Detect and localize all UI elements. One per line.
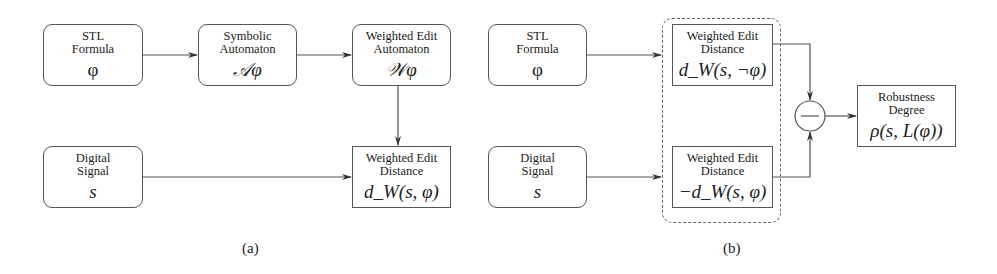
weighted-edit-automaton-node: Weighted Edit Automaton 𝒲φ (352, 24, 451, 86)
node-symbol: φ (88, 59, 99, 81)
robustness-degree-node: Robustness Degree ρ(s, L(φ)) (857, 85, 956, 147)
node-title: Formula (516, 43, 558, 56)
node-symbol: d_W(s, ¬φ) (679, 59, 767, 81)
node-title: Symbolic (224, 30, 272, 43)
digital-signal-node-b: Digital Signal s (488, 146, 587, 208)
node-title: STL (82, 30, 104, 43)
caption-b: (b) (723, 240, 741, 257)
node-title: Automaton (219, 43, 275, 56)
stl-formula-node: STL Formula φ (43, 24, 143, 86)
node-title: Digital (520, 152, 555, 165)
node-title: Signal (522, 165, 554, 178)
symbolic-automaton-node: Symbolic Automaton 𝒜φ (198, 24, 297, 86)
node-symbol: 𝒜φ (233, 59, 262, 81)
node-title: Distance (701, 43, 745, 56)
node-title: Distance (380, 165, 424, 178)
wed-negation-node: Weighted Edit Distance d_W(s, ¬φ) (672, 24, 773, 86)
node-symbol: −d_W(s, φ) (679, 181, 767, 203)
caption-a: (a) (242, 240, 259, 257)
node-title: Signal (77, 165, 109, 178)
node-title: STL (526, 30, 548, 43)
node-symbol: 𝒲φ (386, 59, 417, 81)
node-title: Weighted Edit (366, 30, 438, 43)
node-title: Weighted Edit (366, 152, 438, 165)
node-title: Automaton (373, 43, 429, 56)
node-title: Weighted Edit (687, 152, 759, 165)
node-title: Degree (888, 104, 924, 117)
node-symbol: s (534, 181, 541, 203)
node-title: Formula (72, 43, 114, 56)
node-symbol: d_W(s, φ) (364, 181, 439, 203)
wed-negative-node: Weighted Edit Distance −d_W(s, φ) (672, 146, 773, 208)
node-title: Robustness (878, 91, 935, 104)
node-title: Weighted Edit (687, 30, 759, 43)
digital-signal-node: Digital Signal s (43, 146, 143, 208)
node-title: Digital (76, 152, 111, 165)
node-symbol: φ (532, 59, 543, 81)
node-symbol: ρ(s, L(φ)) (870, 120, 942, 142)
stl-formula-node-b: STL Formula φ (488, 24, 587, 86)
node-symbol: s (89, 181, 96, 203)
weighted-edit-distance-node: Weighted Edit Distance d_W(s, φ) (352, 146, 451, 208)
node-title: Distance (701, 165, 745, 178)
